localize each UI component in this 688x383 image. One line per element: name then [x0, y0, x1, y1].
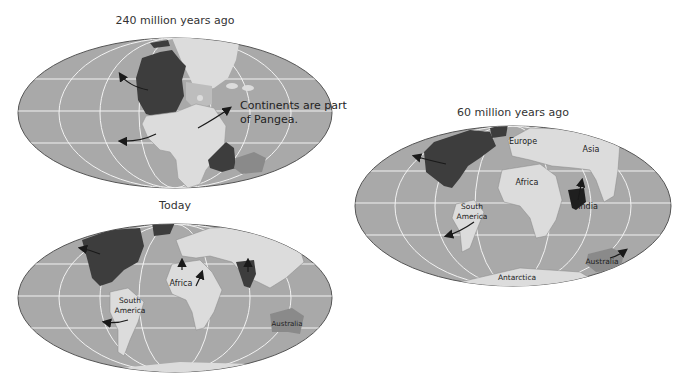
- label-south-america-today-1: South: [119, 296, 141, 305]
- label-asia-60mya: Asia: [583, 145, 600, 154]
- label-australia-60mya: Australia: [585, 257, 618, 266]
- label-south-america-60mya-2: America: [457, 212, 488, 221]
- label-india-60mya: India: [578, 202, 598, 211]
- map-240mya: Continents are part of Pangea. Af: [0, 0, 688, 383]
- label-africa-60mya: Africa: [516, 178, 539, 187]
- map-title-today: Today: [125, 199, 225, 212]
- pangea-annotation-line1: Continents are part: [240, 99, 348, 112]
- map-title-60mya: 60 million years ago: [413, 106, 613, 119]
- label-south-america-60mya-1: South: [461, 202, 483, 211]
- label-australia-today: Australia: [272, 320, 303, 328]
- label-africa-today: Africa: [170, 279, 193, 288]
- pangea-annotation-line2: of Pangea.: [240, 113, 298, 126]
- label-antarctica-60mya: Antarctica: [498, 273, 536, 282]
- label-europe-60mya: Europe: [509, 137, 537, 146]
- label-south-america-today-2: America: [115, 306, 146, 315]
